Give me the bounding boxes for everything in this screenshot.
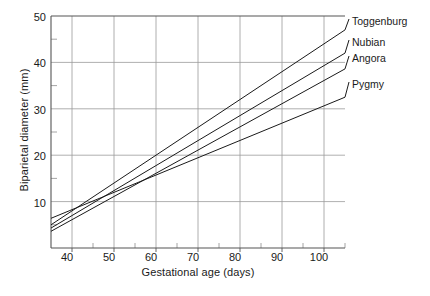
leader-line-nubian (345, 40, 349, 53)
y-tick-label-10: 10 (22, 197, 46, 209)
x-tick-label-90: 90 (262, 251, 292, 263)
series-label-nubian: Nubian (352, 36, 385, 48)
y-tick-label-30: 30 (22, 104, 46, 116)
y-tick-label-50: 50 (22, 11, 46, 23)
series-label-pygmy: Pygmy (352, 78, 384, 90)
x-tick-label-80: 80 (220, 251, 250, 263)
gridlines-group (51, 16, 345, 248)
leader-line-angora (345, 56, 349, 69)
x-tick-label-70: 70 (178, 251, 208, 263)
series-label-angora: Angora (352, 52, 386, 64)
y-axis-label: Biparietal diameter (mm) (18, 50, 30, 210)
x-tick-label-60: 60 (136, 251, 166, 263)
y-tick-label-40: 40 (22, 57, 46, 69)
series-label-toggenburg: Toggenburg (352, 15, 407, 27)
x-tick-label-50: 50 (94, 251, 124, 263)
x-tick-label-40: 40 (52, 251, 82, 263)
chart-figure: Biparietal diameter (mm) Gestational age… (0, 0, 430, 296)
leader-line-toggenburg (345, 19, 349, 30)
y-tick-label-20: 20 (22, 150, 46, 162)
x-axis-label: Gestational age (days) (51, 266, 345, 278)
leader-line-pygmy (345, 82, 349, 97)
x-tick-label-100: 100 (304, 251, 334, 263)
leader-lines-group (345, 19, 349, 97)
